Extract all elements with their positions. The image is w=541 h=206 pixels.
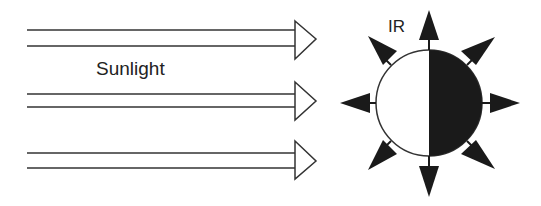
ir-arrow-up-icon: [419, 10, 439, 50]
ir-label: IR: [388, 17, 405, 36]
sunlight-ray-1: [27, 21, 316, 59]
sunlight-ir-diagram: Sunlight IR: [0, 0, 541, 206]
night-side: [429, 50, 482, 156]
ir-arrow-down-left-icon: [368, 140, 397, 170]
ir-arrow-up-left-icon: [368, 36, 397, 65]
ir-arrow-up-right-icon: [461, 37, 495, 65]
sunlight-ray-2: [27, 82, 316, 120]
ir-arrow-down-icon: [419, 156, 439, 197]
ir-arrow-down-right-icon: [461, 140, 495, 169]
ir-arrow-right-icon: [482, 93, 520, 113]
sunlight-label: Sunlight: [96, 58, 165, 79]
planet: [376, 50, 482, 156]
sunlight-ray-3: [27, 141, 316, 179]
ir-arrow-left-icon: [340, 93, 376, 113]
